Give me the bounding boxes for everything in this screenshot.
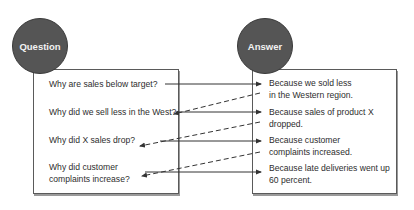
arrows-layer — [0, 0, 414, 210]
dashed-arrow-1 — [174, 93, 260, 114]
dashed-arrow-2 — [140, 122, 260, 146]
